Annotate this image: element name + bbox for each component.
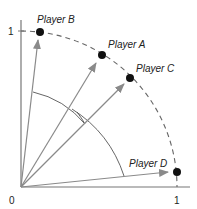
player-d-dot [173,168,181,176]
angle-arc-a-d [72,109,124,176]
x-tick-label-0: 0 [9,195,15,206]
player-c-dot [126,74,134,82]
player-a-dot [98,51,106,59]
player-vector-diagram: 0 1 1 Player B Player A Player C Player … [0,0,197,209]
player-d-label: Player D [129,158,167,169]
x-tick-label-1: 1 [174,195,180,206]
vector-player-b [21,40,38,187]
angle-arc-b-c [33,92,85,124]
player-b-label: Player B [37,14,75,25]
vector-player-c [21,84,124,187]
vector-player-d [21,172,168,187]
angle-arc-a-c [77,112,85,124]
player-c-label: Player C [136,63,175,74]
vector-player-a [21,63,96,187]
y-tick-label-1: 1 [8,26,14,37]
player-b-dot [36,28,44,36]
player-a-label: Player A [108,39,146,50]
